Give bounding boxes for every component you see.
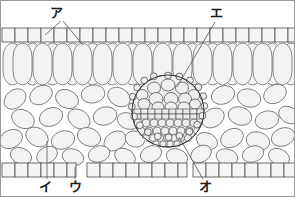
label-u: ウ	[69, 179, 82, 194]
palisade-mesophyll-layer	[3, 43, 295, 85]
lower-epidermis-layer	[2, 163, 295, 177]
cambium-band	[134, 109, 204, 119]
upper-epidermis-layer	[2, 28, 295, 42]
diagram-canvas: ア イ ウ エ オ	[1, 1, 295, 197]
label-a: ア	[50, 5, 63, 20]
leaf-cross-section-figure: ア イ ウ エ オ	[0, 0, 295, 197]
label-o: オ	[199, 179, 212, 194]
label-e: エ	[210, 5, 223, 20]
label-i: イ	[39, 179, 52, 194]
